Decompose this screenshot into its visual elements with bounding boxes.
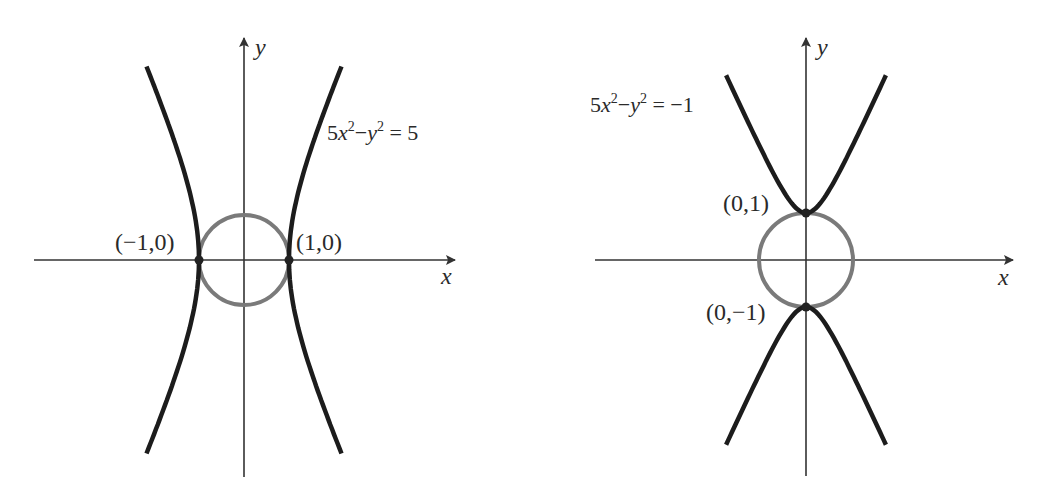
left-y-axis-label: y <box>253 34 266 60</box>
left-equation-label: 5x2−y2 = 5 <box>327 119 418 145</box>
right-point-0-1 <box>802 209 811 218</box>
right-equation-label: 5x2−y2 = −1 <box>590 91 694 117</box>
left-point-label-1-0: (1,0) <box>296 229 342 255</box>
right-point-0-neg1 <box>802 303 811 312</box>
right-point-label-0-neg1: (0,−1) <box>706 299 766 325</box>
right-x-axis-label: x <box>997 264 1009 290</box>
left-point-label-neg1-0: (−1,0) <box>115 229 175 255</box>
left-point-1-0 <box>285 256 294 265</box>
right-point-label-0-1: (0,1) <box>723 190 769 216</box>
figure-canvas: x y (−1,0) (1,0) 5x2−y2 = 5 x y (0,1) (0… <box>0 0 1042 497</box>
right-figure: x y (0,1) (0,−1) 5x2−y2 = −1 <box>590 34 1013 476</box>
left-figure: x y (−1,0) (1,0) 5x2−y2 = 5 <box>34 34 455 477</box>
right-y-axis-label: y <box>815 34 828 60</box>
left-x-axis-label: x <box>440 263 452 289</box>
left-point-neg1-0 <box>195 256 204 265</box>
